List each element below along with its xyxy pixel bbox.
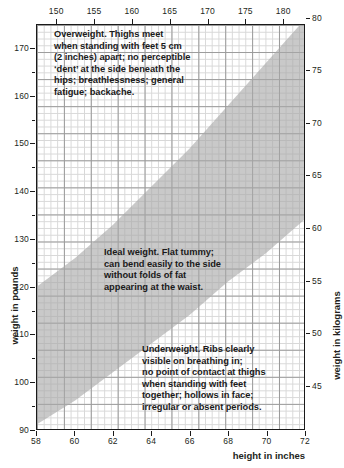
y-tick-mark-minor-lb-125 [32, 263, 35, 264]
y-tick-mark-kg-65 [306, 175, 310, 176]
x-tick-label-cm-165: 165 [162, 6, 177, 16]
y-tick-mark-minor-lb-115 [32, 311, 35, 312]
y-tick-mark-lb-170 [30, 48, 35, 49]
y-tick-mark-minor-lb-105 [32, 358, 35, 359]
x-tick-mark-in-72 [305, 431, 306, 436]
x-tick-label-in-68: 68 [223, 436, 233, 446]
y-tick-label-kg-50: 50 [312, 328, 322, 338]
x-tick-mark-in-68 [228, 431, 229, 436]
x-tick-label-in-70: 70 [262, 436, 272, 446]
x-tick-label-in-58: 58 [31, 436, 41, 446]
x-tick-label-in-64: 64 [146, 436, 156, 446]
y-tick-label-kg-45: 45 [312, 381, 322, 391]
y-tick-label-lb-120: 120 [3, 282, 29, 292]
annotation-underweight: Underweight. Ribs clearly visible on bre… [142, 344, 266, 414]
x-tick-mark-in-70 [267, 431, 268, 436]
x-tick-mark-in-58 [36, 431, 37, 436]
weight-height-chart: Overweight. Thighs meet when standing wi… [0, 0, 344, 468]
x-tick-label-cm-170: 170 [200, 6, 215, 16]
x-tick-mark-cm-155 [94, 19, 95, 24]
y-tick-mark-kg-55 [306, 281, 310, 282]
y-tick-label-kg-80: 80 [312, 13, 322, 23]
y-tick-mark-minor-lb-95 [32, 406, 35, 407]
x-tick-mark-cm-150 [56, 19, 57, 24]
y-tick-label-kg-70: 70 [312, 118, 322, 128]
y-tick-mark-kg-50 [306, 333, 310, 334]
x-tick-label-cm-155: 155 [87, 6, 102, 16]
y-tick-mark-kg-75 [306, 70, 310, 71]
y-tick-mark-lb-150 [30, 143, 35, 144]
y-tick-mark-lb-140 [30, 191, 35, 192]
y-tick-label-kg-55: 55 [312, 276, 322, 286]
y-tick-mark-minor-lb-145 [32, 167, 35, 168]
x-tick-mark-cm-170 [208, 19, 209, 24]
y-tick-mark-kg-70 [306, 123, 310, 124]
x-tick-label-in-62: 62 [108, 436, 118, 446]
y-tick-mark-lb-160 [30, 96, 35, 97]
x-tick-label-in-66: 66 [185, 436, 195, 446]
x-tick-label-in-60: 60 [69, 436, 79, 446]
x-tick-mark-in-60 [74, 431, 75, 436]
y-tick-mark-minor-lb-165 [32, 72, 35, 73]
y-tick-mark-kg-80 [306, 18, 310, 19]
x-tick-mark-cm-165 [170, 19, 171, 24]
y-tick-label-lb-100: 100 [3, 377, 29, 387]
y-tick-label-lb-150: 150 [3, 138, 29, 148]
y-tick-mark-lb-100 [30, 382, 35, 383]
x-axis-title-inches: height in inches [233, 450, 305, 461]
y-tick-label-lb-110: 110 [3, 329, 29, 339]
y-axis-title-kilograms: weight in kilograms [331, 288, 342, 384]
x-tick-label-cm-150: 150 [49, 6, 64, 16]
y-tick-mark-kg-45 [306, 386, 310, 387]
y-tick-mark-minor-lb-155 [32, 120, 35, 121]
y-tick-label-kg-60: 60 [312, 223, 322, 233]
y-tick-mark-lb-110 [30, 334, 35, 335]
y-tick-label-lb-160: 160 [3, 91, 29, 101]
y-tick-mark-kg-60 [306, 228, 310, 229]
x-tick-mark-cm-180 [283, 19, 284, 24]
y-tick-mark-lb-120 [30, 287, 35, 288]
x-tick-label-in-72: 72 [300, 436, 310, 446]
y-tick-label-kg-75: 75 [312, 65, 322, 75]
x-tick-label-cm-160: 160 [125, 6, 140, 16]
y-tick-label-kg-65: 65 [312, 170, 322, 180]
x-tick-label-cm-180: 180 [276, 6, 291, 16]
y-tick-mark-minor-lb-135 [32, 215, 35, 216]
y-tick-label-lb-170: 170 [3, 43, 29, 53]
y-tick-label-lb-90: 90 [3, 425, 29, 435]
y-tick-label-lb-140: 140 [3, 186, 29, 196]
x-tick-mark-in-66 [190, 431, 191, 436]
x-tick-mark-in-64 [151, 431, 152, 436]
annotation-ideal-weight: Ideal weight. Flat tummy; can bend easil… [104, 247, 221, 293]
x-tick-mark-cm-175 [245, 19, 246, 24]
x-tick-mark-cm-160 [132, 19, 133, 24]
y-tick-mark-lb-90 [30, 430, 35, 431]
y-tick-mark-lb-130 [30, 239, 35, 240]
x-tick-label-cm-175: 175 [238, 6, 253, 16]
annotation-overweight: Overweight. Thighs meet when standing wi… [54, 29, 190, 99]
y-tick-label-lb-130: 130 [3, 234, 29, 244]
x-tick-mark-in-62 [113, 431, 114, 436]
